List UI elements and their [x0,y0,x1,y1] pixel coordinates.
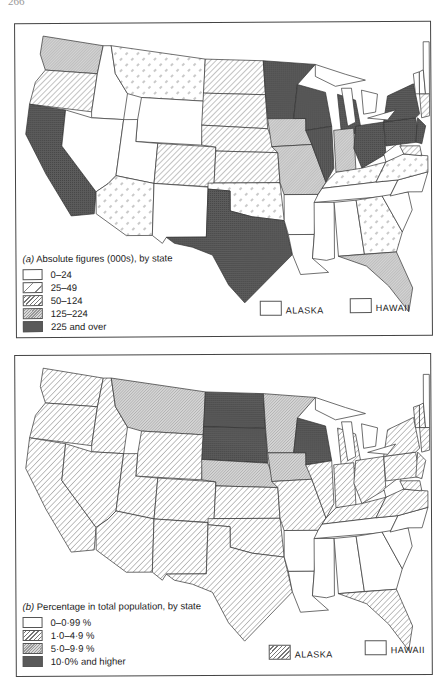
map-b-legend: 0–0·99 %1·0–4·9 %5·0–9·9 %10·0% and high… [23,616,126,669]
legend-item: 1·0–4·9 % [23,629,126,643]
state-ne-states [419,94,429,118]
state-ks [214,486,280,519]
legend-swatch [23,295,43,306]
state-wa [40,36,103,74]
state-sd [202,426,268,463]
great-lake-0 [315,397,365,420]
page-number: 266 [8,0,25,7]
legend-item: 225 and over [23,320,107,334]
alaska-swatch [269,645,291,660]
legend-item: 10·0% and higher [23,655,126,669]
legend-label: 225 and over [51,321,107,332]
state-nj [416,118,426,144]
legend-swatch [23,308,43,319]
legend-swatch [23,656,43,667]
map-panel-absolute: (a) Absolute figures (000s), by state 0–… [14,21,433,339]
great-lake-0 [315,64,365,86]
state-ar [284,530,318,571]
state-ia [268,118,312,146]
inset-hawaii: HAWAII [365,640,425,655]
legend-item: 0–24 [23,268,107,282]
state-ar [284,194,318,234]
state-nm [152,519,208,581]
state-ia [268,453,312,482]
state-sd [201,93,267,129]
legend-label: 25–49 [51,282,77,293]
state-ms [312,538,334,597]
legend-swatch [23,617,43,628]
alaska-label: ALASKA [286,305,324,315]
state-oh [354,456,386,503]
legend-item: 5·0–9·9 % [23,642,126,656]
state-nm [152,183,208,243]
state-in [334,128,356,172]
legend-label: 5·0–9·9 % [51,643,95,654]
legend-label: 10·0% and higher [51,656,126,667]
state-ms [312,202,334,260]
caption-text: Percentage in total population, by state [37,600,201,612]
map-b-caption: (b) Percentage in total population, by s… [22,600,201,612]
legend-item: 125–224 [23,307,107,321]
alaska-label: ALASKA [295,649,333,659]
alaska-swatch [260,301,282,316]
great-lake-2 [362,424,378,449]
legend-swatch [23,643,43,654]
legend-item: 25–49 [23,281,107,295]
state-nd [203,392,265,429]
state-nj [416,452,426,479]
caption-text: Absolute figures (000s), by state [36,252,172,264]
state-wy [135,97,203,145]
legend-label: 125–224 [51,308,88,319]
hawaii-label: HAWAII [391,645,425,655]
legend-label: 50–124 [51,295,83,306]
state-co [154,143,216,187]
state-co [154,478,216,523]
state-wa [40,368,103,407]
map-a-caption: (a) Absolute figures (000s), by state [22,252,172,264]
legend-label: 0–0·99 % [51,617,92,628]
inset-hawaii: HAWAII [350,298,410,313]
legend-label: 0–24 [51,269,72,280]
legend-swatch [23,282,43,293]
legend-swatch [23,269,43,280]
map-panel-percentage: (b) Percentage in total population, by s… [14,353,433,677]
legend-item: 50–124 [23,294,107,308]
state-ne-states [420,428,430,453]
great-lake-2 [361,90,377,114]
legend-swatch [23,630,43,641]
legend-swatch [23,321,43,332]
state-pa [384,452,420,481]
state-in [334,463,356,508]
legend-item: 0–0·99 % [23,616,126,630]
inset-alaska: ALASKA [269,644,333,659]
caption-label: (b) [22,601,34,612]
inset-alaska: ALASKA [260,300,324,315]
state-wy [136,431,204,480]
hawaii-swatch [350,298,372,313]
hawaii-swatch [365,640,387,655]
hawaii-label: HAWAII [376,303,410,313]
state-ks [214,151,280,183]
caption-label: (a) [22,253,34,264]
legend-label: 1·0–4·9 % [51,630,95,641]
state-oh [354,122,386,168]
state-pa [384,118,420,146]
map-a-legend: 0–2425–4950–124125–224225 and over [23,268,107,334]
state-nd [203,59,265,95]
